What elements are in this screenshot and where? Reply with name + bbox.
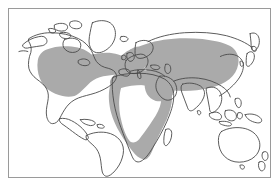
sulawesi-coastline bbox=[237, 113, 242, 119]
sub-saharan-africa-range-shade bbox=[109, 76, 172, 159]
new-guinea-coastline bbox=[245, 114, 262, 123]
map-frame bbox=[8, 8, 271, 178]
arctic-island-1 bbox=[55, 23, 68, 31]
kamchatka-coastline bbox=[250, 33, 259, 51]
world-distribution-figure bbox=[0, 0, 280, 193]
central-america-coastline bbox=[59, 118, 88, 140]
greenland-coastline bbox=[89, 21, 115, 53]
cuba-coastline bbox=[80, 119, 95, 125]
southeast-asia-coastline bbox=[206, 87, 221, 113]
arctic-island-2 bbox=[70, 21, 82, 29]
australia-coastline bbox=[218, 128, 259, 163]
world-map[interactable] bbox=[9, 9, 270, 177]
tasmania-coastline bbox=[240, 165, 244, 169]
hispaniola-coastline bbox=[97, 124, 104, 128]
aleutian-islands bbox=[19, 51, 28, 52]
iceland-coastline bbox=[120, 36, 128, 41]
new-zealand-south-coastline bbox=[258, 161, 265, 170]
sri-lanka-coastline bbox=[198, 111, 201, 115]
alaska-coastline bbox=[23, 36, 47, 48]
philippines-coastline bbox=[235, 98, 241, 107]
madagascar-coastline bbox=[164, 129, 172, 146]
south-america-coastline bbox=[86, 132, 123, 176]
new-zealand-coastline bbox=[262, 152, 268, 161]
java-coastline bbox=[219, 121, 231, 126]
sumatra-coastline bbox=[209, 112, 221, 120]
japan-coastline bbox=[246, 52, 254, 67]
distribution-range-layer bbox=[37, 38, 238, 159]
borneo-coastline bbox=[225, 110, 237, 121]
